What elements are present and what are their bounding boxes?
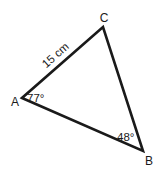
angle-label-b: 48° — [117, 131, 134, 143]
triangle-figure: C A B 77° 48° 15 cm — [0, 0, 162, 176]
vertex-label-c: C — [100, 11, 109, 25]
vertex-label-b: B — [145, 154, 153, 168]
triangle-diagram: C A B 77° 48° 15 cm — [0, 0, 162, 176]
vertex-label-a: A — [11, 95, 19, 109]
side-label-ac: 15 cm — [40, 40, 71, 70]
angle-label-a: 77° — [27, 92, 44, 104]
